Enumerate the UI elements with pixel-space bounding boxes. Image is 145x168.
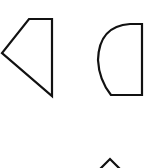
shapes-canvas (0, 0, 145, 168)
quadrilateral-shape (2, 19, 52, 96)
half-disc-shape (98, 24, 142, 95)
partial-triangle-shape (97, 159, 123, 168)
